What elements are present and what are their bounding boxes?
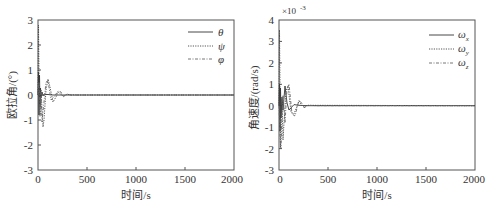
x-tick-label: 500 [79, 173, 96, 185]
x-tick-label: 1500 [415, 173, 438, 185]
legend-label-theta: θ [218, 26, 224, 38]
y-tick-label: -3 [24, 164, 34, 176]
legend-label-omega-x: ωx [458, 28, 470, 43]
series-theta [38, 72, 234, 115]
y-tick-label: 1 [28, 64, 34, 76]
y-tick-label: 0 [28, 89, 34, 101]
x-tick-label: 1000 [366, 173, 389, 185]
legend-label-psi: ψ [218, 40, 225, 52]
legend-label-phi: φ [218, 53, 224, 65]
y-tick-label: 2 [28, 39, 34, 51]
x-tick-label: 500 [320, 173, 337, 185]
series-omega-z [279, 84, 475, 149]
x-tick-label: 1000 [125, 173, 148, 185]
legend-label-omega-z: ωz [458, 56, 469, 71]
euler-angle-chart: 3 2 1 0 -1 -2 -3 0 500 1000 1500 2000 时间… [0, 0, 248, 209]
data-lines [279, 30, 475, 149]
x-axis-label: 时间/s [121, 189, 150, 201]
y-tick-label: -2 [265, 143, 274, 155]
series-phi [38, 81, 234, 122]
y-tick-label: 1 [269, 78, 275, 90]
series-omega-y [279, 30, 475, 149]
legend: ωx ωy ωz [429, 28, 470, 71]
y-multiplier: ×10 -3 [282, 4, 306, 16]
y-tick-label: 2 [269, 57, 275, 69]
x-axis-label: 时间/s [362, 189, 391, 201]
y-tick-label: 3 [28, 14, 34, 26]
x-tick-label: 0 [277, 173, 283, 185]
multiplier-exponent: -3 [300, 4, 306, 12]
data-lines [38, 25, 234, 127]
x-tick-label: 2000 [463, 173, 486, 185]
y-tick-label: -2 [24, 139, 33, 151]
legend: θ ψ φ [188, 26, 225, 65]
x-tick-label: 1500 [174, 173, 197, 185]
y-tick-label: -1 [265, 121, 274, 133]
y-tick-label: 3 [269, 35, 275, 47]
y-tick-label: -3 [265, 164, 275, 176]
y-tick-label: -1 [24, 114, 33, 126]
y-axis-label: 欧拉角/(°) [5, 71, 19, 119]
x-tick-label: 0 [35, 173, 41, 185]
angular-velocity-chart: ×10 -3 4 3 2 1 0 -1 -2 -3 0 500 1000 150… [248, 0, 496, 209]
series-omega-x [279, 84, 475, 131]
y-axis-label: 角速度/(rad/s) [248, 65, 261, 130]
y-tick-label: 0 [269, 100, 275, 112]
multiplier-base: ×10 [282, 6, 297, 16]
plot-area [279, 20, 475, 170]
y-tick-label: 4 [269, 14, 275, 26]
x-tick-label: 2000 [221, 173, 244, 185]
series-psi [38, 25, 234, 127]
legend-label-omega-y: ωy [458, 42, 470, 57]
